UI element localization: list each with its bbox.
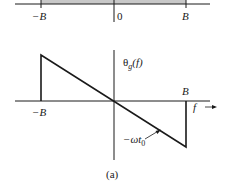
f-arrow-head-icon (212, 105, 217, 109)
figure-caption: (a) (106, 169, 118, 180)
slope-annotation: −ωt0 (123, 134, 145, 149)
theta-argument: (f) (132, 56, 142, 68)
slope-annotation-main: −ωt (123, 133, 141, 145)
slope-annotation-sub: 0 (141, 139, 145, 148)
f-axis-label: f (193, 102, 196, 113)
top-label-neg-b: −B (32, 11, 46, 22)
top-label-zero: 0 (117, 11, 123, 22)
diagram-canvas (0, 0, 229, 194)
top-label-pos-b: B (182, 11, 189, 22)
bottom-label-neg-b: −B (32, 107, 46, 118)
bottom-label-pos-b: B (182, 86, 189, 97)
phase-axis-label: θg(f) (123, 57, 143, 72)
